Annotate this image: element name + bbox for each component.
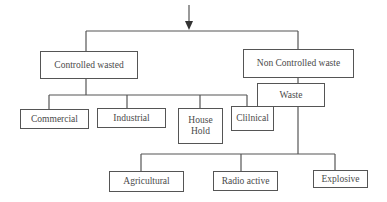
- node-clinical: Clilnical: [231, 106, 274, 131]
- node-non-controlled-waste: Non Controlled waste: [243, 49, 354, 78]
- node-agricultural: Agricultural: [109, 171, 184, 192]
- node-commercial: Commercial: [20, 109, 89, 129]
- node-household: House Hold: [178, 108, 223, 144]
- node-explosive: Explosive: [313, 170, 368, 188]
- waste-classification-diagram: Controlled wasted Non Controlled waste W…: [0, 0, 387, 202]
- node-radio-active: Radio active: [213, 171, 278, 191]
- node-waste: Waste: [257, 83, 325, 107]
- arrow-down-icon: [185, 21, 193, 30]
- node-controlled-wasted: Controlled wasted: [40, 51, 138, 79]
- node-industrial: Industrial: [97, 108, 166, 128]
